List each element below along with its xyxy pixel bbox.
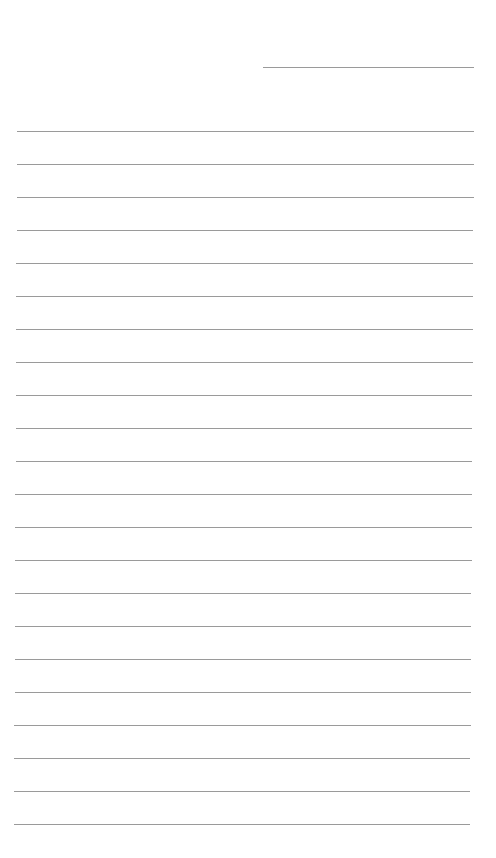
ruled-line — [14, 758, 470, 759]
ruled-line — [17, 164, 474, 165]
lined-page — [0, 0, 496, 858]
ruled-line — [16, 329, 473, 330]
ruled-line — [14, 824, 470, 825]
ruled-line — [14, 725, 470, 726]
ruled-line — [14, 791, 470, 792]
ruled-line — [15, 560, 471, 561]
ruled-line — [15, 494, 471, 495]
ruled-line — [16, 395, 473, 396]
ruled-line — [16, 296, 473, 297]
ruled-line — [15, 659, 471, 660]
ruled-line — [15, 692, 471, 693]
ruled-line — [17, 230, 474, 231]
ruled-line — [15, 626, 471, 627]
ruled-line — [16, 428, 473, 429]
ruled-line — [17, 197, 474, 198]
header-line — [263, 67, 474, 68]
ruled-line — [16, 461, 473, 462]
ruled-line — [16, 362, 473, 363]
ruled-line — [15, 593, 471, 594]
ruled-line — [15, 527, 471, 528]
ruled-line — [16, 263, 473, 264]
ruled-line — [17, 131, 474, 132]
